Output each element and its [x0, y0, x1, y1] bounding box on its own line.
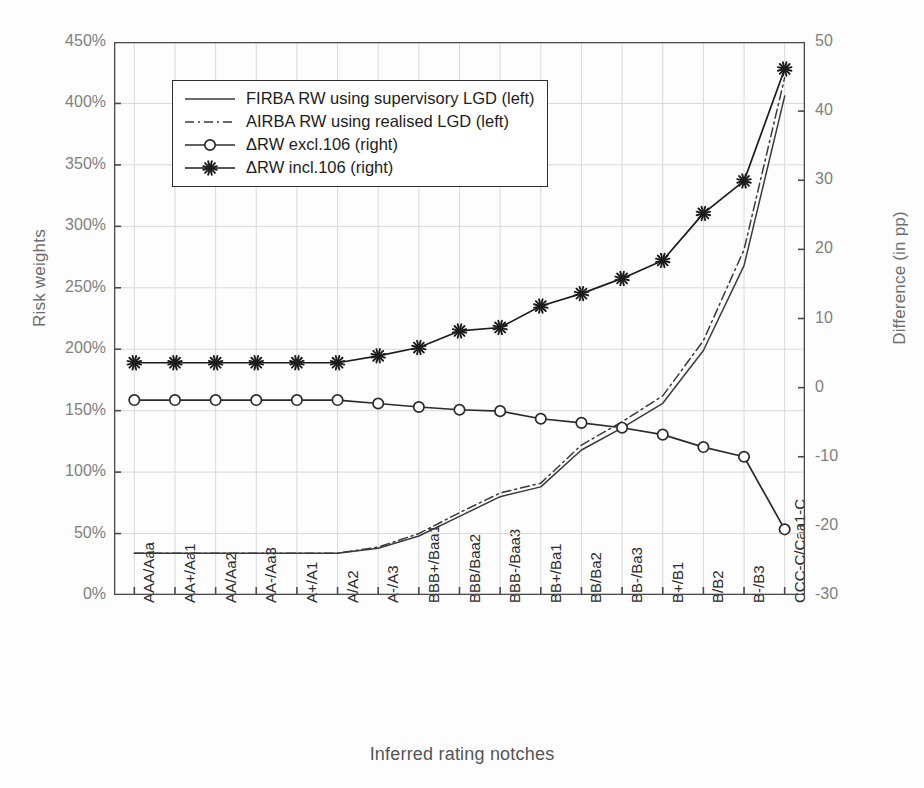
legend-key-line-star-icon [183, 160, 237, 176]
y-axis-right-tick-label: 20 [815, 239, 833, 257]
chart-legend: FIRBA RW using supervisory LGD (left)AIR… [172, 80, 548, 187]
y-axis-left-tick-label: 50% [74, 524, 106, 542]
y-axis-right-tick-label: -20 [815, 516, 838, 534]
legend-key-line-dash-dot-icon [183, 114, 237, 130]
y-axis-right-tick-label: 10 [815, 309, 833, 327]
data-point-circle [658, 429, 668, 439]
data-point-circle [414, 402, 424, 412]
data-point-circle [210, 395, 220, 405]
y-axis-right-tick-label: 50 [815, 32, 833, 50]
data-point-circle [454, 405, 464, 415]
legend-key-line-circle-icon [183, 137, 237, 153]
y-axis-left-tick-label: 200% [65, 339, 106, 357]
legend-item[interactable]: FIRBA RW using supervisory LGD (left) [183, 87, 535, 110]
data-point-circle [332, 395, 342, 405]
y-axis-right-tick-label: 40 [815, 101, 833, 119]
data-point-circle [292, 395, 302, 405]
data-point-circle [617, 423, 627, 433]
y-axis-left-tick-label: 350% [65, 155, 106, 173]
data-point-circle [779, 524, 789, 534]
y-axis-left-tick-label: 100% [65, 462, 106, 480]
y-axis-left-tick-label: 400% [65, 93, 106, 111]
y-axis-left-ticks: 0%50%100%150%200%250%300%350%400%450% [28, 0, 106, 788]
legend-key-line-solid-icon [183, 91, 237, 107]
y-axis-left-tick-label: 300% [65, 216, 106, 234]
y-axis-right-tick-label: 30 [815, 170, 833, 188]
legend-item-label: ΔRW excl.106 (right) [246, 135, 398, 154]
data-point-circle [576, 418, 586, 428]
legend-item-label: AIRBA RW using realised LGD (left) [246, 112, 509, 131]
y-axis-left-tick-label: 0% [83, 585, 106, 603]
legend-item[interactable]: AIRBA RW using realised LGD (left) [183, 110, 535, 133]
legend-item-label: FIRBA RW using supervisory LGD (left) [246, 89, 535, 108]
y-axis-left-tick-label: 150% [65, 401, 106, 419]
data-point-circle [129, 395, 139, 405]
data-point-circle [373, 398, 383, 408]
data-point-circle [739, 452, 749, 462]
data-point-circle [251, 395, 261, 405]
data-point-circle [495, 406, 505, 416]
x-axis-title: Inferred rating notches [0, 744, 924, 765]
legend-item-label: ΔRW incl.106 (right) [246, 158, 393, 177]
y-axis-right-tick-label: -10 [815, 447, 838, 465]
y-axis-left-tick-label: 450% [65, 32, 106, 50]
data-point-circle [536, 414, 546, 424]
y-axis-right-tick-label: 0 [815, 378, 824, 396]
legend-item[interactable]: ΔRW excl.106 (right) [183, 133, 535, 156]
chart-figure: Risk weights Difference (in pp) Inferred… [0, 0, 924, 788]
y-axis-right-ticks: -30-20-1001020304050 [815, 0, 895, 788]
legend-item[interactable]: ΔRW incl.106 (right) [183, 156, 535, 179]
y-axis-left-tick-label: 250% [65, 278, 106, 296]
data-point-circle [698, 442, 708, 452]
y-axis-right-tick-label: -30 [815, 585, 838, 603]
data-point-circle [170, 395, 180, 405]
